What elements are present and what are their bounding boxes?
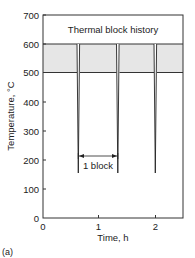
svg-text:0: 0 — [40, 221, 45, 232]
chart: Thermal block history 700 600 500 400 30… — [0, 0, 195, 258]
svg-text:0: 0 — [34, 213, 39, 224]
svg-text:500: 500 — [23, 67, 39, 78]
svg-text:700: 700 — [23, 10, 39, 21]
svg-text:2: 2 — [153, 221, 158, 232]
panel-label: (a) — [2, 247, 13, 257]
svg-text:100: 100 — [23, 184, 39, 195]
svg-text:1 block: 1 block — [83, 160, 113, 171]
svg-text:1: 1 — [96, 221, 101, 232]
band-500-600 — [43, 44, 183, 73]
block-annotation: 1 block — [78, 153, 118, 171]
chart-title: Thermal block history — [68, 24, 159, 35]
svg-text:200: 200 — [23, 155, 39, 166]
svg-text:300: 300 — [23, 126, 39, 137]
x-axis-title: Time, h — [97, 232, 128, 243]
svg-text:400: 400 — [23, 97, 39, 108]
y-axis-title: Temperature, °C — [5, 81, 16, 150]
svg-text:600: 600 — [23, 39, 39, 50]
